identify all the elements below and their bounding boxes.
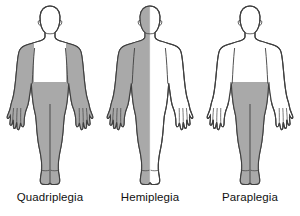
paralysis-types-diagram: Quadriplegia [0, 0, 300, 216]
unshaded-chest-quadriplegia [35, 41, 66, 82]
body-figure-paraplegia [204, 4, 296, 190]
shaded-left-half-hemiplegia [104, 4, 149, 190]
figure-label-quadriplegia: Quadriplegia [0, 190, 100, 204]
body-figure-hemiplegia [104, 4, 196, 190]
figure-label-paraplegia: Paraplegia [200, 190, 300, 204]
figure-panel-paraplegia: Paraplegia [200, 0, 300, 216]
figure-label-hemiplegia: Hemiplegia [100, 190, 200, 204]
figure-panel-quadriplegia: Quadriplegia [0, 0, 100, 216]
body-figure-quadriplegia [4, 4, 96, 190]
figure-panel-hemiplegia: Hemiplegia [100, 0, 200, 216]
